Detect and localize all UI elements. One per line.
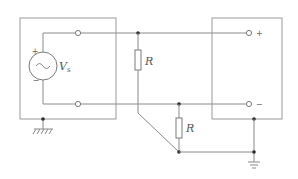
chassis-ground-icon — [33, 129, 53, 134]
source-minus-sign: − — [33, 76, 40, 85]
load-terminal-plus-icon — [246, 30, 251, 35]
resistor-r2-icon — [176, 118, 182, 138]
right-ground-junction — [252, 150, 256, 154]
source-terminal-top-icon — [75, 30, 80, 35]
resistor-r1-label: R — [144, 55, 153, 68]
load-terminal-minus-icon — [246, 101, 251, 106]
resistor-r2-label: R — [185, 122, 194, 135]
source-terminal-bottom-icon — [75, 101, 80, 106]
source-label-subscript: s — [67, 66, 71, 74]
resistor-r1-icon — [135, 50, 141, 70]
r1-diagonal-wire — [138, 113, 179, 152]
source-plus-sign: + — [32, 47, 39, 56]
left-ground-junction — [41, 117, 45, 121]
load-minus-sign: − — [256, 100, 263, 109]
signal-ground-icon — [248, 162, 260, 168]
circuit-diagram: + − V s R R + − — [0, 0, 298, 179]
load-plus-sign: + — [256, 29, 263, 38]
